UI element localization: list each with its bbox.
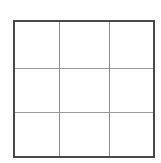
grid-cell-r2c0[interactable] bbox=[15, 113, 59, 156]
grid-cell-r1c2[interactable] bbox=[109, 69, 153, 112]
grid-canvas bbox=[0, 0, 161, 163]
table-row bbox=[15, 68, 153, 112]
table-row bbox=[15, 22, 153, 68]
grid-cell-r0c0[interactable] bbox=[15, 22, 59, 68]
grid-cell-r0c2[interactable] bbox=[109, 22, 153, 68]
grid-cell-r1c0[interactable] bbox=[15, 69, 59, 112]
grid-cell-r2c2[interactable] bbox=[109, 113, 153, 156]
grid-cell-r1c1[interactable] bbox=[59, 69, 109, 112]
table-row bbox=[15, 112, 153, 156]
grid-cell-r0c1[interactable] bbox=[59, 22, 109, 68]
grid-table bbox=[13, 20, 155, 158]
grid-cell-r2c1[interactable] bbox=[59, 113, 109, 156]
